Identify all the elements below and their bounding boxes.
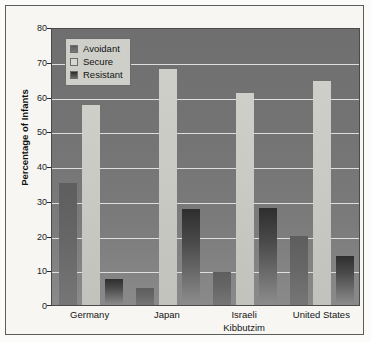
x-axis-category-label: United States [283,309,360,322]
legend-swatch-icon [70,58,78,66]
bar-avoidant-germany [59,183,77,305]
bar-secure-israeli-kibbutzim [236,93,254,305]
legend: Avoidant Secure Resistant [65,38,131,86]
y-axis-tick-label: 70 [13,58,47,68]
bar-avoidant-united-states [290,236,308,306]
y-axis-ticks: 01020304050607080 [11,28,47,306]
bar-avoidant-israeli-kibbutzim [213,272,231,305]
bar-avoidant-japan [136,288,154,305]
legend-item-label: Secure [83,56,113,67]
bar-secure-germany [82,105,100,305]
y-axis-tick-label: 30 [13,197,47,207]
y-axis-tick-label: 60 [13,93,47,103]
bar-resistant-japan [182,209,200,305]
legend-item-label: Avoidant [83,43,120,54]
y-axis-tick-label: 40 [13,162,47,172]
chart-screenshot: Percentage of Infants 01020304050607080 … [0,0,371,342]
bar-resistant-united-states [336,256,354,305]
y-axis-tick-label: 80 [13,23,47,33]
bar-secure-japan [159,69,177,305]
legend-item-resistant: Resistant [70,68,123,81]
figure-frame: Percentage of Infants 01020304050607080 … [5,5,364,335]
x-axis-category-label: IsraeliKibbutzim [206,309,283,334]
bar-resistant-israeli-kibbutzim [259,208,277,305]
legend-item-secure: Secure [70,55,123,68]
y-axis-tick-label: 20 [13,232,47,242]
x-axis-labels: GermanyJapanIsraeliKibbutzimUnited State… [51,309,360,342]
x-axis-category-label: Germany [51,309,128,322]
legend-swatch-icon [70,71,78,79]
legend-item-avoidant: Avoidant [70,42,123,55]
legend-swatch-icon [70,45,78,53]
bar-resistant-germany [105,279,123,305]
legend-item-label: Resistant [83,69,123,80]
y-axis-tick-label: 50 [13,127,47,137]
y-axis-tick-label: 10 [13,266,47,276]
y-axis-tick-label: 0 [13,301,47,311]
plot-area: Avoidant Secure Resistant [51,28,360,306]
bar-secure-united-states [313,81,331,305]
x-axis-category-label: Japan [128,309,205,322]
